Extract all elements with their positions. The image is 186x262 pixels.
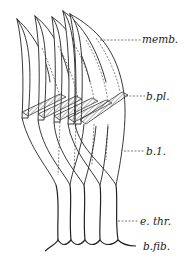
basal-fiber	[45, 240, 136, 251]
diagram-figure: memb. b.pl. b.1. e. thr. b.fib.	[0, 0, 186, 262]
stems	[22, 118, 122, 185]
label-b1: b.1.	[146, 146, 166, 157]
leader-lines	[100, 40, 145, 221]
label-epithelial-thread: e. thr.	[140, 216, 171, 227]
label-basal-plate: b.pl.	[146, 91, 169, 102]
label-basal-fiber: b.fib.	[143, 241, 170, 252]
label-membrane: memb.	[142, 34, 178, 45]
membrane-blades	[17, 11, 125, 150]
epithelial-threads	[56, 185, 118, 240]
